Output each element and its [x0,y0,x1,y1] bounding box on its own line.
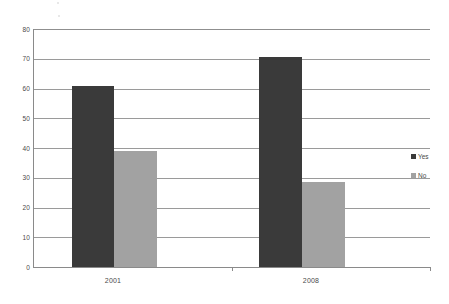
bar-2008-no[interactable] [302,182,345,267]
y-tick-label: 30 [4,174,30,181]
bar-2001-no[interactable] [114,151,157,267]
legend-item-no[interactable]: No [411,169,449,182]
legend-item-yes[interactable]: Yes [411,150,449,163]
bar-2008-yes[interactable] [259,57,302,267]
y-tick-label: 20 [4,204,30,211]
y-tick-label: 50 [4,115,30,122]
bar-2001-yes[interactable] [72,86,114,268]
legend-label-yes: Yes [418,153,429,160]
y-axis-line [33,29,34,268]
x-axis-category-tick [232,267,233,271]
x-axis-category-tick [430,267,431,271]
legend-swatch-no-icon [411,173,416,178]
y-tick-label: 80 [4,26,30,33]
bar-chart-figure: 80 70 60 50 40 30 20 10 0 2001 2008 Yes … [0,0,449,304]
scan-artifact-dot [57,2,59,4]
gridline-70 [33,59,430,60]
y-tick-label: 10 [4,234,30,241]
y-tick-label: 40 [4,145,30,152]
plot-area [33,29,430,267]
x-category-label-2001: 2001 [93,277,133,285]
chart-legend: Yes No [411,150,449,188]
legend-swatch-yes-icon [411,154,416,159]
y-axis-tick-labels: 80 70 60 50 40 30 20 10 0 [0,0,30,304]
y-tick-label: 70 [4,55,30,62]
x-category-label-2008: 2008 [291,277,331,285]
scan-artifact-dot [58,15,60,17]
y-tick-label: 0 [4,264,30,271]
gridline-80 [33,29,430,30]
legend-label-no: No [418,172,426,179]
y-tick-label: 60 [4,85,30,92]
